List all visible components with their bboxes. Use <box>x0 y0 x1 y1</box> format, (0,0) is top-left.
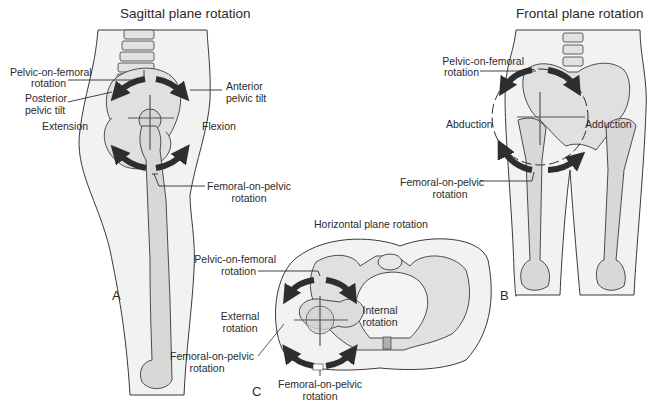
label-a-posterior-2: pelvic tilt <box>25 104 65 116</box>
label-a-anterior-2: pelvic tilt <box>226 92 266 104</box>
label-c-internal-2: rotation <box>350 316 410 328</box>
panel-letter-c: C <box>252 384 261 399</box>
panel-letter-a: A <box>112 288 121 303</box>
vertebra-c <box>378 254 402 270</box>
label-c-internal-1: Internal <box>350 304 410 316</box>
label-c-pelvic-on-femoral-1: Pelvic-on-femoral <box>190 253 276 265</box>
anatomy-illustration <box>0 0 657 406</box>
label-b-abduction: Abduction <box>446 118 493 130</box>
panel-a-title: Sagittal plane rotation <box>120 6 251 21</box>
label-a-flexion: Flexion <box>202 120 236 132</box>
label-c-femoral-on-pelvic-left-2: rotation <box>160 362 254 374</box>
label-c-external-1: External <box>210 310 270 322</box>
label-a-femoral-on-pelvic-1: Femoral-on-pelvic <box>204 180 294 192</box>
label-a-anterior-1: Anterior <box>226 80 263 92</box>
label-b-pelvic-on-femoral-2: rotation <box>420 66 479 78</box>
panel-a-sagittal <box>68 30 222 395</box>
label-a-posterior-1: Posterior <box>25 92 67 104</box>
panel-b-title: Frontal plane rotation <box>516 6 644 21</box>
panel-c-title: Horizontal plane rotation <box>314 218 428 230</box>
frontal-spine <box>563 33 583 66</box>
label-c-femoral-on-pelvic-bottom-2: rotation <box>272 390 368 402</box>
panel-letter-b: B <box>500 288 509 303</box>
label-a-extension: Extension <box>42 120 88 132</box>
label-b-adduction: Adduction <box>585 118 632 130</box>
label-c-femoral-on-pelvic-bottom-1: Femoral-on-pelvic <box>272 378 368 390</box>
label-c-external-2: rotation <box>210 322 270 334</box>
label-a-femoral-on-pelvic-2: rotation <box>204 192 294 204</box>
label-c-pelvic-on-femoral-2: rotation <box>190 265 256 277</box>
label-c-femoral-on-pelvic-left-1: Femoral-on-pelvic <box>160 350 254 362</box>
label-b-femoral-on-pelvic-2: rotation <box>400 188 500 200</box>
label-b-femoral-on-pelvic-1: Femoral-on-pelvic <box>400 176 478 188</box>
label-a-pelvic-on-femoral-2: rotation <box>10 77 66 89</box>
panel-b-frontal <box>480 30 646 296</box>
